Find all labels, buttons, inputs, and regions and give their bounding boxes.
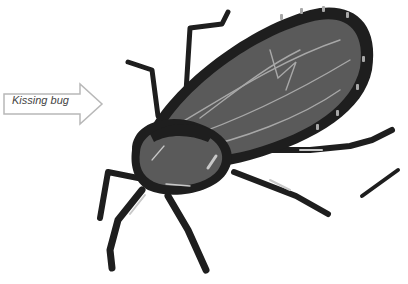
illustration-canvas: Kissing bug bbox=[0, 0, 408, 284]
kissing-bug-illustration bbox=[0, 0, 408, 284]
